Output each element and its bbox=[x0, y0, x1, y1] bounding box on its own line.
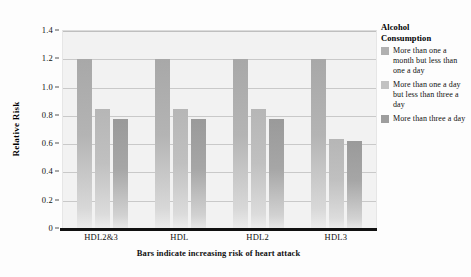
y-axis-tick-mark bbox=[55, 228, 59, 229]
y-axis: 00.20.40.60.81.01.21.4 bbox=[0, 0, 62, 258]
plot-area bbox=[62, 30, 377, 229]
legend-title-line2: Consumption bbox=[381, 33, 469, 44]
x-axis-labels: HDL2&3HDLHDL2HDL3 bbox=[62, 232, 375, 248]
y-axis-tick-mark bbox=[55, 58, 59, 59]
bar bbox=[173, 109, 188, 229]
x-axis-tick-label: HDL bbox=[140, 232, 218, 248]
legend-items: More than one a month but less than one … bbox=[381, 46, 469, 124]
y-axis-tick-label: 0.4 bbox=[42, 166, 53, 176]
y-axis-tick-label: 0.8 bbox=[42, 110, 53, 120]
bar bbox=[347, 141, 362, 229]
legend: Alcohol Consumption More than one a mont… bbox=[381, 22, 469, 128]
bar bbox=[329, 139, 344, 230]
x-axis-tick-label: HDL3 bbox=[297, 232, 375, 248]
bar-group bbox=[220, 31, 298, 229]
y-axis-tick-label: 0 bbox=[49, 223, 53, 233]
bar bbox=[95, 109, 110, 229]
y-axis-tick-mark bbox=[55, 114, 59, 115]
legend-item-label: More than three a day bbox=[393, 114, 465, 124]
y-axis-tick-label: 1.2 bbox=[42, 53, 53, 63]
bars-layer bbox=[63, 31, 376, 229]
y-axis-tick-label: 0.2 bbox=[42, 195, 53, 205]
y-axis-tick-mark bbox=[55, 199, 59, 200]
legend-title-line1: Alcohol bbox=[381, 22, 469, 33]
y-axis-tick-mark bbox=[55, 86, 59, 87]
legend-item[interactable]: More than one a day but less than three … bbox=[381, 80, 469, 110]
bar bbox=[113, 119, 128, 229]
bar bbox=[77, 59, 92, 229]
legend-item[interactable]: More than one a month but less than one … bbox=[381, 46, 469, 76]
bar bbox=[191, 119, 206, 229]
chart-root: 00.20.40.60.81.01.21.4 Relative Risk HDL… bbox=[0, 0, 471, 277]
y-axis-tick-label: 0.6 bbox=[42, 138, 53, 148]
y-axis-tick-mark bbox=[55, 171, 59, 172]
legend-title: Alcohol Consumption bbox=[381, 22, 469, 43]
legend-item-label: More than one a month but less than one … bbox=[393, 46, 469, 76]
y-axis-title: Relative Risk bbox=[11, 101, 21, 156]
legend-swatch bbox=[381, 115, 389, 123]
bar-group bbox=[63, 31, 141, 229]
x-axis-line bbox=[60, 228, 377, 231]
legend-swatch bbox=[381, 47, 389, 55]
y-axis-tick-mark bbox=[55, 143, 59, 144]
bar bbox=[155, 59, 170, 229]
x-axis-tick-label: HDL2&3 bbox=[62, 232, 140, 248]
legend-item[interactable]: More than three a day bbox=[381, 114, 469, 124]
bar bbox=[251, 109, 266, 229]
y-axis-tick-label: 1.4 bbox=[42, 25, 53, 35]
bar-group bbox=[298, 31, 376, 229]
legend-item-label: More than one a day but less than three … bbox=[393, 80, 469, 110]
bar bbox=[269, 119, 284, 229]
bar bbox=[233, 59, 248, 229]
y-axis-tick-label: 1.0 bbox=[42, 82, 53, 92]
legend-swatch bbox=[381, 81, 389, 89]
bar-group bbox=[141, 31, 219, 229]
x-axis-tick-label: HDL2 bbox=[219, 232, 297, 248]
chart-caption: Bars indicate increasing risk of heart a… bbox=[62, 248, 375, 258]
y-axis-tick-mark bbox=[55, 30, 59, 31]
bar bbox=[311, 59, 326, 229]
